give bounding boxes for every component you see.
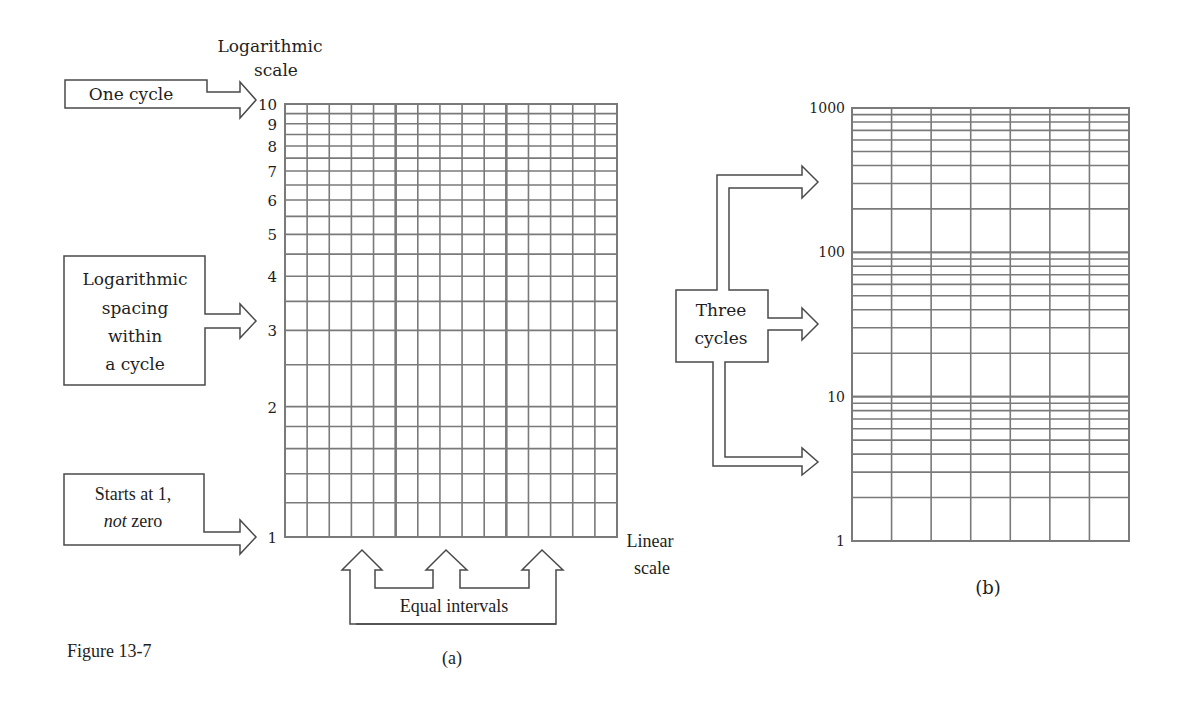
panel-b: 1101001000 Three cycles (b) [676,100,1129,598]
panel-b-caption: (b) [975,577,1001,598]
y-tick-label: 10 [827,389,845,405]
y-tick-label: 100 [818,244,845,260]
y-tick-label: 1000 [809,100,845,116]
panel-a-frame [285,104,617,537]
y-tick-label: 10 [258,96,277,114]
y-tick-label: 7 [267,163,277,181]
panel-a-y-axis-title-line1: Logarithmic [218,36,323,56]
callout-starts-at-one-line2: not zero [104,511,163,531]
callout-equal-intervals: Equal intervals [342,550,563,624]
callout-log-spacing-line2: spacing [102,298,169,318]
panel-a-grid [285,104,617,537]
panel-b-grid [852,108,1129,541]
callout-not-emphasis: not [104,511,128,531]
callout-three-cycles-line2: cycles [695,328,748,348]
panel-a-y-tick-labels: 12345678910 [258,96,277,547]
callout-logarithmic-spacing: Logarithmic spacing within a cycle [64,256,256,385]
y-tick-label: 3 [267,322,277,340]
y-tick-label: 5 [267,226,277,244]
callout-starts-at-one: Starts at 1, not zero [64,474,256,554]
callout-log-spacing-line1: Logarithmic [83,269,188,289]
figure-canvas: Logarithmic scale 12345678910 Linear sca… [0,0,1188,714]
figure-label: Figure 13-7 [67,641,152,661]
panel-a-x-axis-title-line2: scale [634,558,670,578]
panel-a-y-axis-title-line2: scale [254,60,298,80]
y-tick-label: 8 [267,138,277,156]
panel-a-x-axis-title-line1: Linear [627,531,674,551]
panel-a-caption: (a) [442,648,462,669]
callout-zero-text: zero [127,511,162,531]
y-tick-label: 2 [267,399,277,417]
callout-starts-at-one-line1: Starts at 1, [95,484,172,504]
callout-log-spacing-line4: a cycle [105,354,165,374]
y-tick-label: 1 [267,529,277,547]
y-tick-label: 9 [267,116,277,134]
callout-one-cycle: One cycle [65,80,256,118]
callout-one-cycle-label: One cycle [89,84,174,104]
panel-b-frame [852,108,1129,541]
arrow-right-icon [676,166,818,475]
callout-three-cycles-line1: Three [696,300,747,320]
callout-three-cycles: Three cycles [676,166,818,475]
y-tick-label: 1 [836,533,845,549]
callout-log-spacing-line3: within [108,326,162,346]
y-tick-label: 4 [267,268,277,286]
y-tick-label: 6 [267,192,277,210]
panel-a: Logarithmic scale 12345678910 Linear sca… [64,36,673,669]
callout-equal-intervals-label: Equal intervals [400,596,508,616]
